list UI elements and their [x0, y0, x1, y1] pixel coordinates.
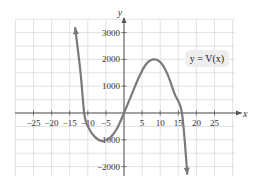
y-axis-label: y [117, 7, 123, 18]
y-tick-label: 1000 [102, 81, 121, 91]
curve-arrows [73, 27, 190, 174]
y-axis-arrow-icon [122, 17, 127, 23]
y-tick-label: 2000 [102, 54, 121, 64]
x-axis-label: x [242, 108, 248, 119]
function-label-text: y = V(x) [190, 53, 224, 65]
x-tick-label: −15 [63, 118, 78, 128]
function-label: y = V(x) [185, 50, 229, 67]
x-tick-label: 20 [192, 118, 202, 128]
y-tick-label: −2000 [97, 162, 121, 172]
x-tick-label: −25 [26, 118, 41, 128]
x-tick-label: −20 [45, 118, 60, 128]
y-tick-label: 3000 [102, 28, 121, 38]
x-tick-label: 5 [140, 118, 145, 128]
grid [15, 19, 235, 176]
x-tick-label: −5 [101, 118, 111, 128]
chart: −25−20−15−10−5510152025300020001000−1000… [0, 0, 256, 189]
curve-v-of-x [75, 27, 187, 174]
x-tick-label: 25 [210, 118, 220, 128]
x-tick-label: 10 [156, 118, 166, 128]
x-axis-arrow-icon [236, 111, 242, 116]
axes [15, 17, 242, 176]
